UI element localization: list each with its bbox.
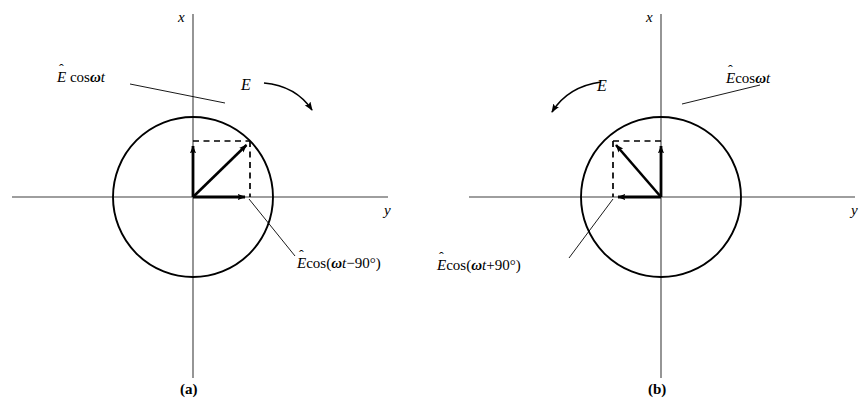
resultant-label-b: E bbox=[597, 78, 607, 94]
e-hat-symbol-a1: ˆE bbox=[57, 70, 66, 85]
component-vertical-label-b: ˆEcosωt bbox=[726, 71, 770, 86]
axis-y-label-a: y bbox=[384, 203, 391, 218]
rotation-direction-arrow-a bbox=[264, 83, 312, 110]
component-horizontal-label-a: ˆEcos(ωt−90°) bbox=[297, 256, 381, 271]
panel-caption-a: (a) bbox=[180, 382, 198, 397]
e-hat-symbol-b2: ˆE bbox=[437, 258, 446, 273]
resultant-label-a: E bbox=[241, 77, 251, 93]
axis-x-label-a: x bbox=[178, 10, 185, 25]
component-vertical-label-a: ˆE cosωt bbox=[57, 70, 105, 85]
panel-caption-b: (b) bbox=[648, 382, 666, 397]
e-hat-symbol-b1: ˆE bbox=[726, 71, 735, 86]
vector-resultant-a bbox=[193, 145, 247, 197]
circumflex-accent-a1: ˆ bbox=[59, 62, 64, 76]
circumflex-accent-a2: ˆ bbox=[299, 248, 304, 262]
e-hat-symbol-a2: ˆE bbox=[297, 256, 306, 271]
rotation-direction-arrow-b bbox=[552, 82, 601, 112]
panel-b-graphics bbox=[433, 0, 867, 416]
axis-y-label-b: y bbox=[851, 203, 858, 218]
vector-resultant-b bbox=[616, 145, 661, 197]
leader-line-vertical-label-b bbox=[682, 85, 760, 104]
leader-line-horizontal-label-b bbox=[569, 199, 613, 258]
component-horizontal-label-b: ˆEcos(ωt+90°) bbox=[437, 258, 521, 273]
leader-line-vertical-label-a bbox=[130, 84, 225, 103]
circumflex-accent-b2: ˆ bbox=[439, 250, 444, 264]
axis-x-label-b: x bbox=[646, 10, 653, 25]
figure-canvas: x y E ˆE cosωt ˆEcos(ωt−90°) (a) bbox=[0, 0, 867, 416]
circumflex-accent-b1: ˆ bbox=[728, 63, 733, 77]
panel-a-graphics bbox=[0, 0, 433, 416]
